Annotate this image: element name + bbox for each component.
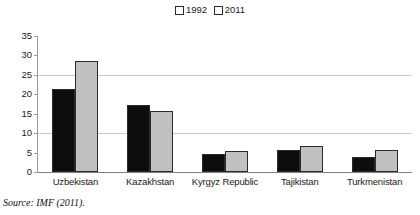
y-tick-label: 20 — [21, 89, 32, 99]
bar-2011 — [375, 150, 398, 172]
x-axis-label: Uzbekistan — [38, 176, 113, 187]
legend-entry-2011: 2011 — [214, 5, 245, 15]
bar-group — [113, 36, 188, 172]
y-tick-label: 15 — [21, 109, 32, 119]
y-tick-mark — [34, 172, 38, 173]
y-tick-label: 5 — [27, 148, 32, 158]
legend-entry-1992: 1992 — [175, 5, 207, 15]
y-tick-label: 25 — [21, 70, 32, 80]
bar-1992 — [202, 154, 225, 172]
bar-group — [38, 36, 113, 172]
chart-legend: 1992 2011 — [0, 5, 420, 15]
y-tick-label: 10 — [21, 128, 32, 138]
legend-label-1992: 1992 — [186, 5, 207, 15]
bar-group — [262, 36, 337, 172]
x-axis-baseline — [38, 172, 412, 173]
x-axis-label: Kyrgyz Republic — [188, 176, 263, 187]
x-axis-label: Kazakhstan — [113, 176, 188, 187]
source-note: Source: IMF (2011). — [3, 197, 85, 209]
y-tick-label: 0 — [27, 167, 32, 177]
bar-group — [188, 36, 263, 172]
x-axis-label: Tajikistan — [262, 176, 337, 187]
bar-1992 — [52, 89, 75, 172]
chart-figure: 1992 2011 05101520253035 UzbekistanKazak… — [0, 0, 420, 215]
legend-swatch-1992-icon — [175, 6, 184, 15]
x-axis-label: Turkmenistan — [337, 176, 412, 187]
bar-groups — [38, 36, 412, 172]
legend-swatch-2011-icon — [214, 6, 223, 15]
x-axis-category-labels: UzbekistanKazakhstanKyrgyz RepublicTajik… — [38, 176, 412, 187]
bar-group — [337, 36, 412, 172]
bar-1992 — [127, 105, 150, 172]
y-tick-label: 35 — [21, 31, 32, 41]
bar-2011 — [75, 61, 98, 172]
bar-2011 — [300, 146, 323, 172]
bar-1992 — [352, 157, 375, 172]
plot-area: 05101520253035 — [38, 36, 412, 172]
y-tick-label: 30 — [21, 50, 32, 60]
legend-label-2011: 2011 — [225, 5, 245, 15]
bar-1992 — [277, 150, 300, 172]
bar-2011 — [150, 111, 173, 172]
bar-2011 — [225, 151, 248, 172]
